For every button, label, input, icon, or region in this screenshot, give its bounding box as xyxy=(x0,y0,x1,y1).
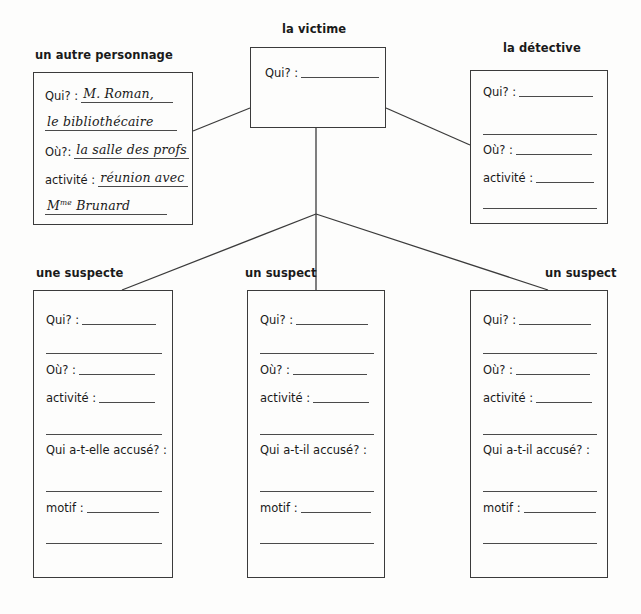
field-row[interactable]: Qui a-t-il accusé? : xyxy=(260,443,370,457)
box-suspect-male-1[interactable]: Qui? : Où? : activité : Qui a-t-il accus… xyxy=(247,290,385,578)
heading-other-character: un autre personnage xyxy=(35,48,173,62)
box-other-character[interactable]: Qui? : M. Roman, le bibliothécaire Où?: … xyxy=(33,72,193,225)
field-rule-continuation[interactable] xyxy=(260,543,374,544)
field-value-handwritten[interactable]: Mme Brunard xyxy=(45,198,167,215)
suspect-male-2-fields: Qui? : Où? : activité : Qui a-t-il accus… xyxy=(471,291,607,577)
field-label: Qui? : xyxy=(46,313,82,327)
heading-suspect-male-1: un suspect xyxy=(245,266,317,280)
field-label: Qui a-t-il accusé? : xyxy=(260,443,370,457)
field-label: activité : xyxy=(260,391,313,405)
box-suspect-male-2[interactable]: Qui? : Où? : activité : Qui a-t-il accus… xyxy=(470,290,608,578)
field-row[interactable]: motif : xyxy=(483,501,596,515)
field-value-handwritten[interactable]: la salle des profs xyxy=(74,142,189,159)
field-rule[interactable] xyxy=(536,402,592,403)
field-rule[interactable] xyxy=(293,374,367,375)
field-rule[interactable] xyxy=(301,77,379,78)
field-rule-continuation[interactable] xyxy=(483,353,597,354)
field-rule[interactable] xyxy=(296,324,368,325)
box-suspect-female[interactable]: Qui? : Où? : activité : Qui a-t-elle acc… xyxy=(33,290,173,578)
field-label: motif : xyxy=(46,501,87,515)
field-value-prefix: M xyxy=(47,198,60,213)
field-rule[interactable] xyxy=(519,324,591,325)
field-value-handwritten[interactable]: M. Roman, xyxy=(81,86,173,103)
field-rule[interactable] xyxy=(516,374,590,375)
field-row[interactable]: Qui a-t-elle accusé? : xyxy=(46,443,170,457)
victim-fields: Qui? : xyxy=(251,48,385,127)
field-rule[interactable] xyxy=(79,374,155,375)
other-character-fields: Qui? : M. Roman, le bibliothécaire Où?: … xyxy=(34,73,192,224)
heading-suspect-male-2: un suspect xyxy=(545,266,617,280)
field-rule-continuation[interactable] xyxy=(260,434,374,435)
field-label: activité : xyxy=(483,171,536,185)
field-label: Qui a-t-elle accusé? : xyxy=(46,443,170,457)
field-row[interactable]: Qui? : xyxy=(265,66,379,80)
field-rule-continuation[interactable] xyxy=(483,134,597,135)
field-row[interactable]: Où? : xyxy=(46,363,155,377)
connector-hub-to-suspect-male-2 xyxy=(316,214,548,290)
field-rule-continuation[interactable] xyxy=(260,491,374,492)
field-value-superscript: me xyxy=(60,198,72,207)
field-label: Qui a-t-il accusé? : xyxy=(483,443,593,457)
field-row[interactable]: activité : xyxy=(483,391,592,405)
field-value-rest: Brunard xyxy=(72,198,130,213)
field-rule[interactable] xyxy=(99,402,155,403)
field-rule-continuation[interactable] xyxy=(46,434,162,435)
field-row[interactable]: Qui? : xyxy=(483,85,593,99)
field-label: Qui? : xyxy=(265,66,301,80)
field-rule-continuation[interactable] xyxy=(483,208,597,209)
field-row[interactable]: Qui? : xyxy=(483,313,591,327)
field-rule[interactable] xyxy=(87,512,159,513)
field-label: Où? : xyxy=(46,363,79,377)
field-rule[interactable] xyxy=(536,182,594,183)
field-rule-continuation[interactable] xyxy=(46,543,162,544)
field-row[interactable]: Où? : xyxy=(260,363,367,377)
field-rule-continuation[interactable] xyxy=(46,353,162,354)
field-rule[interactable] xyxy=(524,512,596,513)
worksheet-canvas: la victime Qui? : un autre personnage Qu… xyxy=(0,0,641,614)
field-rule[interactable] xyxy=(82,324,156,325)
field-label: Qui? : xyxy=(45,89,81,103)
field-label: motif : xyxy=(483,501,524,515)
field-row[interactable]: activité : xyxy=(46,391,155,405)
field-label: Qui? : xyxy=(483,85,519,99)
field-row[interactable]: Qui? : xyxy=(46,313,156,327)
field-rule[interactable] xyxy=(519,96,593,97)
box-detective[interactable]: Qui? : Où? : activité : xyxy=(470,70,608,224)
field-row[interactable]: activité : réunion avec xyxy=(45,170,188,187)
field-label: activité : xyxy=(483,391,536,405)
box-victim[interactable]: Qui? : xyxy=(250,47,386,128)
field-rule[interactable] xyxy=(516,154,592,155)
field-row[interactable]: motif : xyxy=(260,501,371,515)
detective-fields: Qui? : Où? : activité : xyxy=(471,71,607,223)
field-label: activité : xyxy=(46,391,99,405)
suspect-male-1-fields: Qui? : Où? : activité : Qui a-t-il accus… xyxy=(248,291,384,577)
field-row[interactable]: activité : xyxy=(483,171,594,185)
field-row[interactable]: motif : xyxy=(46,501,159,515)
connector-victim-to-other-character xyxy=(193,108,250,131)
field-row[interactable]: Qui? : xyxy=(260,313,368,327)
field-label: Qui? : xyxy=(483,313,519,327)
field-row[interactable]: Où?: la salle des profs xyxy=(45,142,189,159)
field-rule[interactable] xyxy=(313,402,369,403)
field-rule-continuation[interactable] xyxy=(483,434,597,435)
field-rule-continuation[interactable] xyxy=(483,491,597,492)
field-label: motif : xyxy=(260,501,301,515)
field-row[interactable]: Qui a-t-il accusé? : xyxy=(483,443,593,457)
field-row[interactable]: activité : xyxy=(260,391,369,405)
field-label: Où? : xyxy=(483,363,516,377)
connector-victim-to-detective xyxy=(386,108,470,145)
field-label: Qui? : xyxy=(260,313,296,327)
field-rule[interactable] xyxy=(301,512,371,513)
field-row[interactable]: Qui? : M. Roman, xyxy=(45,86,173,103)
field-row[interactable]: Où? : xyxy=(483,143,592,157)
field-label: activité : xyxy=(45,173,98,187)
field-value-handwritten[interactable]: le bibliothécaire xyxy=(45,114,177,131)
field-rule-continuation[interactable] xyxy=(483,543,597,544)
heading-detective: la détective xyxy=(503,41,581,55)
field-row[interactable]: le bibliothécaire xyxy=(45,114,177,131)
field-rule-continuation[interactable] xyxy=(260,353,374,354)
field-rule-continuation[interactable] xyxy=(46,491,162,492)
field-row[interactable]: Où? : xyxy=(483,363,590,377)
field-row[interactable]: Mme Brunard xyxy=(45,198,167,215)
field-value-handwritten[interactable]: réunion avec xyxy=(98,170,188,187)
